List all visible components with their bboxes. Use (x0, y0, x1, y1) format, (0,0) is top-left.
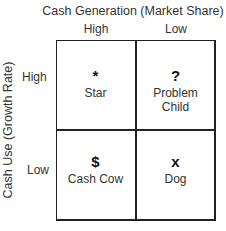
quadrant-dog: x Dog (136, 154, 215, 186)
x-tick-high: High (66, 22, 126, 36)
quadrant-label: Dog (136, 172, 215, 186)
star-icon: * (56, 68, 135, 84)
x-tick-low: Low (146, 22, 206, 36)
y-tick-low: Low (27, 163, 49, 177)
quadrant-label-line-1: Problem (136, 86, 215, 100)
question-mark-icon: ? (136, 68, 215, 84)
x-axis-title: Cash Generation (Market Share) (40, 4, 226, 18)
dollar-icon: $ (56, 154, 135, 170)
quadrant-label: Star (56, 86, 135, 100)
quadrant-cash-cow: $ Cash Cow (56, 154, 135, 186)
x-icon: x (136, 154, 215, 170)
quadrant-problem-child: ? Problem Child (136, 68, 215, 114)
y-axis-title: Cash Use (Growth Rate) (1, 62, 15, 199)
quadrant-star: * Star (56, 68, 135, 100)
quadrant-label: Cash Cow (56, 172, 135, 186)
horizontal-divider (56, 129, 216, 131)
quadrant-label-line-2: Child (136, 100, 215, 114)
y-tick-high: High (22, 70, 47, 84)
